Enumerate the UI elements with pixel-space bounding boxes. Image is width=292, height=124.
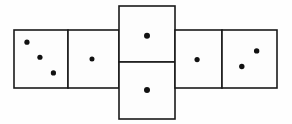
faces-layer <box>14 6 277 119</box>
pip-face-top-1 <box>144 33 150 39</box>
pip-face-left-outer-2 <box>37 55 42 60</box>
pip-face-right-inner-1 <box>194 57 199 62</box>
pip-face-left-outer-3 <box>51 70 56 75</box>
pip-face-right-outer-1 <box>254 48 259 53</box>
cube-net-figure: Cube net with dice pips <box>0 0 292 124</box>
cube-face-two-row-right-outer <box>222 30 277 88</box>
pip-face-left-inner-1 <box>89 57 94 62</box>
pip-face-left-outer-1 <box>24 40 29 45</box>
pip-face-bottom-1 <box>144 87 150 93</box>
pip-face-right-outer-2 <box>239 64 244 69</box>
cube-net-svg <box>0 0 292 124</box>
